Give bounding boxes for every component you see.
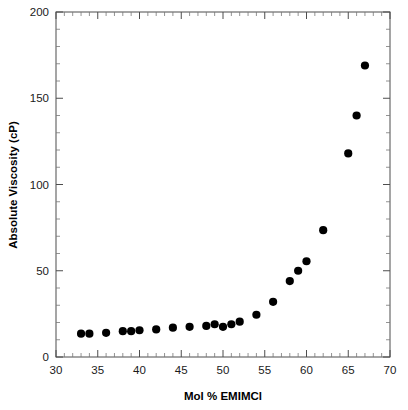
data-point (202, 322, 210, 330)
x-tick-label: 60 (300, 364, 313, 376)
chart-figure: 303540455055606570 050100150200 Mol % EM… (0, 0, 408, 410)
data-point (169, 324, 177, 332)
y-tick-label: 150 (30, 92, 49, 104)
x-tick-label: 40 (133, 364, 146, 376)
x-axis-title: Mol % EMIMCl (184, 390, 262, 402)
y-tick-label: 0 (43, 351, 49, 363)
data-point (302, 257, 310, 265)
data-point (152, 325, 160, 333)
data-point (211, 320, 219, 328)
y-tick-label: 100 (30, 179, 49, 191)
data-point (319, 226, 327, 234)
data-point (227, 320, 235, 328)
y-axis-title: Absolute Viscosity (cP) (7, 121, 19, 249)
data-point (119, 327, 127, 335)
data-point (361, 61, 369, 69)
x-tick-label: 30 (50, 364, 63, 376)
data-point (286, 277, 294, 285)
figure-background (0, 0, 408, 410)
x-tick-label: 70 (384, 364, 397, 376)
data-point (127, 327, 135, 335)
x-tick-label: 50 (217, 364, 230, 376)
data-point (344, 149, 352, 157)
x-axis-tick-labels: 303540455055606570 (50, 364, 397, 376)
data-point (252, 311, 260, 319)
x-tick-label: 55 (258, 364, 271, 376)
y-tick-label: 50 (36, 265, 49, 277)
x-tick-label: 65 (342, 364, 355, 376)
data-point (294, 267, 302, 275)
x-tick-label: 45 (175, 364, 188, 376)
data-point (85, 330, 93, 338)
data-point (77, 330, 85, 338)
data-point (236, 318, 244, 326)
data-point (135, 326, 143, 334)
y-tick-label: 200 (30, 6, 49, 18)
data-point (102, 329, 110, 337)
data-point (353, 111, 361, 119)
scatter-plot: 303540455055606570 050100150200 Mol % EM… (0, 0, 408, 410)
x-tick-label: 35 (91, 364, 104, 376)
data-point (269, 298, 277, 306)
data-point (186, 323, 194, 331)
data-point (219, 323, 227, 331)
